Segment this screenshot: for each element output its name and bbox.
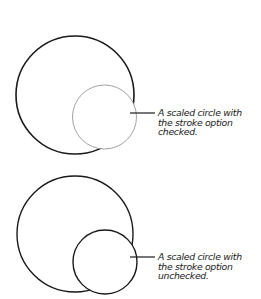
scaled-circle-thin-stroke: [73, 85, 137, 149]
caption-line: checked.: [158, 127, 242, 137]
scaled-circle-full-stroke: [73, 230, 137, 294]
caption-stroke-unchecked: A scaled circle with the stroke option u…: [158, 252, 242, 281]
caption-line: unchecked.: [158, 271, 242, 281]
figure-stroke-unchecked: [17, 176, 155, 294]
caption-stroke-checked: A scaled circle with the stroke option c…: [158, 108, 242, 137]
figure-stroke-checked: [16, 36, 155, 154]
